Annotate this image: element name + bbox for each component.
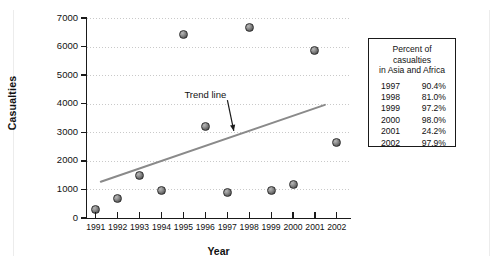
y-tick-label-7000: 7000 — [57, 13, 78, 23]
plot-area: Trend line — [87, 18, 350, 218]
legend-row-1999: 199997.2% — [373, 103, 451, 114]
y-tick-label-3000: 3000 — [57, 127, 78, 137]
legend-row-percent: 81.0% — [416, 92, 446, 103]
y-tick-label-2000: 2000 — [57, 155, 78, 165]
casualties-scatter-chart: 01000200030004000500060007000 Casualties… — [0, 0, 503, 266]
legend-row-year: 1999 — [381, 103, 400, 114]
legend-box-title-line-2: in Asia and Africa — [373, 65, 451, 76]
x-tick-mark-1995 — [183, 212, 184, 218]
y-axis-title: Casualties — [6, 48, 18, 158]
x-tick-mark-2000 — [292, 212, 293, 218]
legend-row-year: 2001 — [381, 126, 400, 137]
legend-row-percent: 98.0% — [416, 115, 446, 126]
legend-row-year: 2000 — [381, 115, 400, 126]
legend-row-year: 1998 — [381, 92, 400, 103]
x-tick-label-2002: 2002 — [320, 222, 354, 232]
x-tick-mark-1991 — [95, 212, 96, 218]
y-tick-label-4000: 4000 — [57, 98, 78, 108]
x-tick-mark-1997 — [227, 212, 228, 218]
trend-line-annotation-label: Trend line — [184, 89, 226, 100]
legend-row-percent: 90.4% — [416, 81, 446, 92]
trend-line-arrow-icon — [87, 18, 350, 218]
x-tick-mark-1994 — [161, 212, 162, 218]
legend-row-year: 1997 — [381, 81, 400, 92]
legend-row-percent: 97.9% — [416, 138, 446, 149]
y-tick-label-1000: 1000 — [57, 184, 78, 194]
legend-row-1998: 199881.0% — [373, 92, 451, 103]
x-tick-mark-1992 — [117, 212, 118, 218]
x-axis-line — [86, 218, 351, 219]
legend-box-title-line-1: Percent of casualties — [373, 44, 451, 65]
x-tick-mark-1996 — [205, 212, 206, 218]
y-tick-label-5000: 5000 — [57, 70, 78, 80]
legend-row-2000: 200098.0% — [373, 115, 451, 126]
y-tick-label-0: 0 — [73, 213, 78, 223]
legend-row-percent: 97.2% — [416, 103, 446, 114]
x-tick-mark-1993 — [139, 212, 140, 218]
legend-row-2001: 200124.2% — [373, 126, 451, 137]
legend-row-percent: 24.2% — [416, 126, 446, 137]
legend-row-1997: 199790.4% — [373, 81, 451, 92]
legend-row-2002: 200297.9% — [373, 138, 451, 149]
legend-row-year: 2002 — [381, 138, 400, 149]
x-axis-title: Year — [87, 245, 350, 257]
figure-right-rule — [489, 10, 490, 256]
x-tick-mark-1998 — [249, 212, 250, 218]
percent-casualties-box: Percent of casualties in Asia and Africa… — [368, 38, 456, 147]
x-tick-mark-1999 — [271, 212, 272, 218]
x-tick-mark-2002 — [336, 212, 337, 218]
legend-box-rows: 199790.4%199881.0%199997.2%200098.0%2001… — [373, 81, 451, 149]
y-tick-label-6000: 6000 — [57, 41, 78, 51]
x-tick-mark-2001 — [314, 212, 315, 218]
